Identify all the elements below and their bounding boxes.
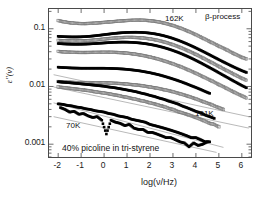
x-tick-label: 6 <box>231 161 251 170</box>
data-point <box>103 126 106 129</box>
x-tick-label: 3 <box>162 161 182 170</box>
data-point <box>208 141 211 144</box>
plot-canvas <box>49 9 251 157</box>
x-tick-label: 5 <box>208 161 228 170</box>
y-tick-label: 0.1 <box>1 23 45 32</box>
data-point <box>208 92 211 95</box>
data-point <box>102 122 105 125</box>
data-point <box>101 119 104 122</box>
y-axis-title: ε"(ν) <box>4 47 14 103</box>
x-tick-label: 2 <box>139 161 159 170</box>
data-point <box>245 71 248 74</box>
annotation-162k: 162K <box>165 15 184 23</box>
plot-area: 162K β-process 101K 70K 40% picoline in … <box>48 8 252 158</box>
annotation-70k: 70K <box>66 122 80 130</box>
x-tick-label: 4 <box>185 161 205 170</box>
y-axis-title-text: ε"(ν) <box>4 67 14 83</box>
data-point <box>104 129 107 132</box>
data-point <box>105 133 108 136</box>
x-axis-title: log(ν/Hz) <box>0 177 266 187</box>
x-tick-label: 1 <box>116 161 136 170</box>
data-point <box>106 129 109 132</box>
annotation-beta-process: β-process <box>205 13 240 21</box>
x-tick-label: -2 <box>47 161 67 170</box>
y-tick-label: 0.001 <box>1 138 45 147</box>
figure-dielectric-loss-spectrum: 0.1 0.01 0.001 ε"(ν) 162K β-process 101K… <box>0 0 266 198</box>
data-point <box>109 122 112 125</box>
data-point <box>107 126 110 129</box>
x-axis-tick-labels: -2-10123456 <box>0 161 266 175</box>
x-tick-label: 0 <box>93 161 113 170</box>
x-axis-title-text: log(ν/Hz) <box>89 177 177 187</box>
annotation-sample-caption: 40% picoline in tri-styrene <box>62 144 159 153</box>
data-point <box>206 141 209 144</box>
x-tick-label: -1 <box>70 161 90 170</box>
annotation-101k: 101K <box>195 110 214 118</box>
